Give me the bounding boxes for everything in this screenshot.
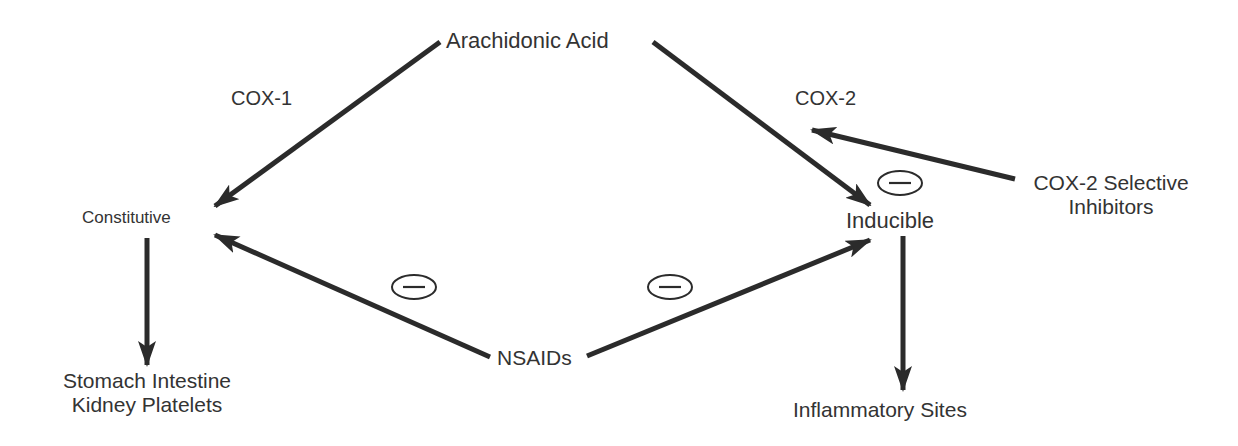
node-constitutive: Constitutive [82, 208, 171, 228]
label-cox1: COX-1 [231, 87, 292, 110]
arrow-aa-to-inducible [653, 42, 870, 205]
node-nsaids: NSAIDs [497, 346, 572, 370]
arrow-nsaids-to-constitutive [215, 235, 490, 357]
node-cox2-inhibitors-line1: COX-2 Selective [1018, 171, 1204, 195]
node-inflammatory-sites: Inflammatory Sites [793, 398, 967, 422]
node-cox2-selective-inhibitors: COX-2 Selective Inhibitors [1018, 171, 1204, 219]
node-cox2-inhibitors-line2: Inhibitors [1018, 195, 1204, 219]
node-constitutive-targets: Stomach Intestine Kidney Platelets [34, 369, 260, 417]
label-cox2: COX-2 [795, 87, 856, 110]
node-inducible: Inducible [846, 208, 934, 233]
arrow-inhibitors-to-cox2 [812, 130, 1015, 179]
node-organs-line1: Stomach Intestine [34, 369, 260, 393]
arrow-aa-to-constitutive [215, 42, 440, 206]
arrow-nsaids-to-inducible [587, 240, 870, 356]
node-organs-line2: Kidney Platelets [34, 393, 260, 417]
node-arachidonic-acid: Arachidonic Acid [446, 28, 609, 53]
